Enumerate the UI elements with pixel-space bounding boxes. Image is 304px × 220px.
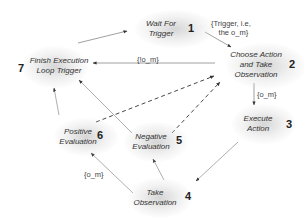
node-choose-action: Choose Action and Take Observation 2	[226, 47, 304, 83]
edge-6-to-7	[54, 88, 59, 115]
node-number: 6	[97, 129, 103, 141]
edge-label-not-om-4-6: {o_m}	[84, 170, 104, 179]
node-label: Wait For Trigger	[135, 19, 187, 39]
edge-3-to-4	[196, 142, 238, 181]
node-label: Take Observation	[130, 188, 180, 208]
edge-5-to-2-dashed	[172, 82, 220, 133]
node-finish-execution: 7 Finish Execution Loop Trigger	[14, 52, 84, 80]
edge-7-to-1	[78, 31, 127, 43]
node-take-observation: Take Observation 4	[130, 184, 200, 212]
edge-label-trigger: {Trigger, i.e, the o_m}	[211, 19, 251, 37]
node-label: Choose Action and Take Observation	[226, 50, 286, 80]
node-number: 3	[286, 118, 292, 130]
node-number: 5	[176, 134, 182, 146]
node-label: Finish Execution Loop Trigger	[28, 56, 90, 76]
edge-label-om-2-3: {o_m}	[257, 90, 277, 99]
node-number: 4	[185, 190, 191, 202]
node-label: Negative Evaluation	[128, 132, 174, 152]
node-negative-evaluation: Negative Evaluation 5	[128, 128, 188, 156]
node-label: Execute Action	[236, 114, 280, 134]
node-execute-action: Execute Action 3	[236, 110, 302, 138]
node-number: 7	[18, 62, 24, 74]
node-wait-for-trigger: Wait For Trigger 1	[135, 14, 215, 44]
node-number: 1	[188, 22, 194, 34]
node-positive-evaluation: Positive Evaluation 6	[58, 124, 114, 150]
edge-label-not-om-2-7: {!o_m}	[137, 55, 159, 64]
edge-4-to-5	[153, 159, 164, 180]
node-number: 2	[289, 58, 295, 70]
node-label: Positive Evaluation	[58, 127, 98, 147]
